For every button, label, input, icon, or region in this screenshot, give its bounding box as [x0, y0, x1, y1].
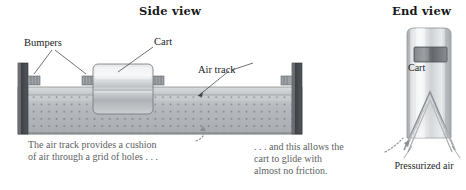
label-cart-end-view: Cart [408, 62, 425, 73]
label-cart: Cart [154, 36, 172, 47]
side-view-artwork [18, 47, 403, 152]
bumper-mid [82, 76, 94, 85]
side-view-title: Side view [139, 4, 201, 18]
cart-end-view [414, 47, 447, 62]
bumper-right [281, 76, 292, 85]
caption-right-pointer [385, 138, 403, 152]
bumper-post-right [292, 63, 302, 134]
label-bumpers: Bumpers [24, 37, 62, 48]
bumper-cart-right [152, 76, 164, 85]
caption-no-friction: . . . and this allows the cart to glide … [254, 141, 379, 178]
label-air-track: Air track [198, 64, 236, 75]
air-track-figure: Side view End view Bumpers Cart Air trac… [0, 0, 466, 190]
bumper-post-left [18, 63, 28, 134]
end-view-artwork [404, 26, 460, 158]
caption-air-cushion: The air track provides a cushion of air … [28, 139, 203, 163]
end-view-title: End view [392, 4, 451, 18]
label-pressurized-air: Pressurized air [393, 160, 455, 172]
bumper-left [28, 76, 40, 85]
air-track [18, 87, 302, 135]
cart-side-view [93, 64, 153, 114]
